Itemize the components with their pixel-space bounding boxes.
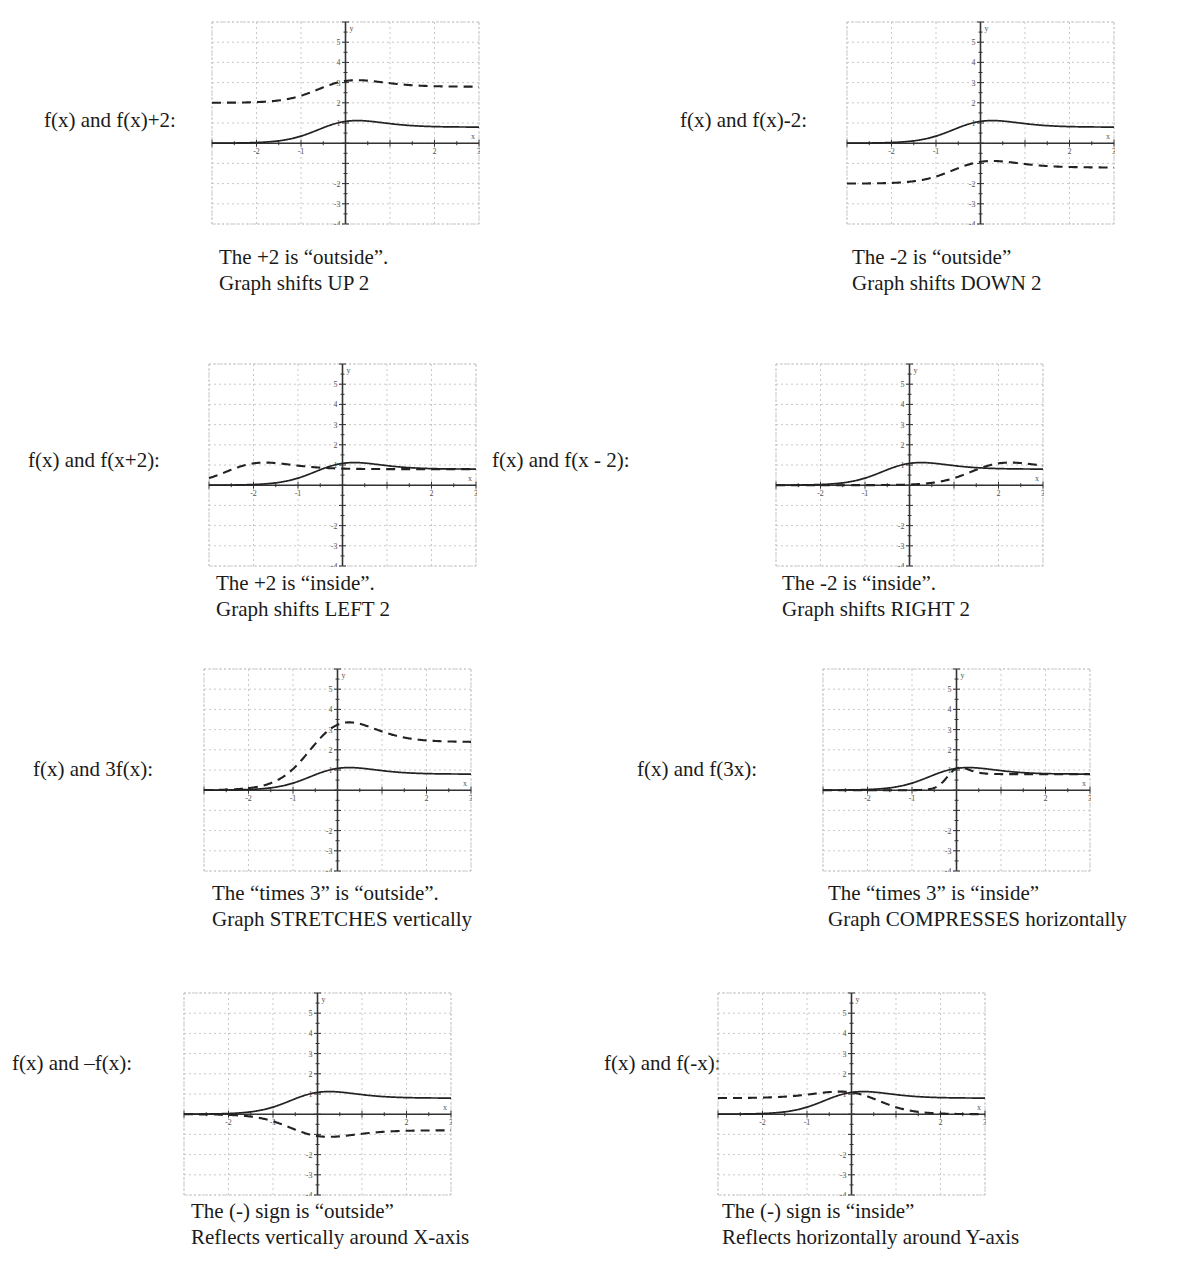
svg-text:y: y: [961, 671, 965, 680]
caption-three-fx: The “times 3” is “outside”. Graph STRETC…: [212, 880, 472, 932]
caption-line-2: Graph shifts LEFT 2: [216, 596, 390, 622]
svg-text:-4: -4: [969, 220, 976, 225]
graph-fx-minus-2-inside: 54321-2-3-4-2-123yx: [775, 363, 1044, 567]
svg-text:x: x: [1035, 474, 1039, 483]
caption-f-neg-x: The (-) sign is “inside” Reflects horizo…: [722, 1198, 1019, 1250]
svg-text:2: 2: [1068, 147, 1072, 156]
svg-text:-3: -3: [945, 847, 952, 856]
svg-text:4: 4: [901, 400, 905, 409]
svg-text:2: 2: [997, 489, 1001, 498]
svg-text:3: 3: [843, 1050, 847, 1059]
svg-text:-4: -4: [334, 220, 341, 225]
caption-line-2: Graph shifts DOWN 2: [852, 270, 1042, 296]
svg-text:x: x: [463, 779, 467, 788]
svg-text:y: y: [985, 24, 989, 33]
graph-fx-plus-2-inside: 54321-2-3-4-2-123yx: [208, 363, 477, 567]
svg-text:2: 2: [939, 1118, 943, 1127]
caption-fx-minus-2-inside: The -2 is “inside”. Graph shifts RIGHT 2: [782, 570, 970, 622]
graph-fx-minus-2: 54321-2-3-4-2-123yx: [846, 21, 1115, 225]
svg-text:-3: -3: [326, 847, 333, 856]
svg-text:-1: -1: [933, 147, 940, 156]
svg-text:3: 3: [1088, 794, 1091, 803]
svg-text:-2: -2: [334, 180, 341, 189]
caption-f-three-x: The “times 3” is “inside” Graph COMPRESS…: [828, 880, 1127, 932]
svg-text:-1: -1: [298, 147, 305, 156]
graph-f-neg-x: 54321-2-3-4-2-123yx: [717, 992, 986, 1196]
svg-text:4: 4: [843, 1029, 847, 1038]
graph-neg-fx: 54321-2-3-4-2-123yx: [183, 992, 452, 1196]
caption-line-1: The -2 is “outside”: [852, 244, 1042, 270]
svg-text:-3: -3: [306, 1171, 313, 1180]
svg-text:-2: -2: [759, 1118, 766, 1127]
caption-line-2: Reflects horizontally around Y-axis: [722, 1224, 1019, 1250]
svg-text:3: 3: [983, 1118, 986, 1127]
panel-label-neg-fx: f(x) and –f(x):: [12, 1051, 132, 1075]
svg-text:2: 2: [334, 441, 338, 450]
svg-text:-3: -3: [898, 542, 905, 551]
caption-line-1: The “times 3” is “inside”: [828, 880, 1127, 906]
svg-text:-4: -4: [898, 562, 905, 567]
caption-line-2: Graph shifts UP 2: [219, 270, 388, 296]
caption-line-2: Graph COMPRESSES horizontally: [828, 906, 1127, 932]
caption-neg-fx: The (-) sign is “outside” Reflects verti…: [191, 1198, 469, 1250]
svg-text:3: 3: [948, 726, 952, 735]
panel-label-fx-minus-2-inside: f(x) and f(x - 2):: [492, 448, 630, 472]
svg-text:-4: -4: [945, 867, 952, 872]
svg-text:3: 3: [309, 1050, 313, 1059]
svg-text:-2: -2: [945, 827, 952, 836]
svg-text:-4: -4: [326, 867, 333, 872]
svg-text:-2: -2: [888, 147, 895, 156]
caption-line-1: The (-) sign is “outside”: [191, 1198, 469, 1224]
svg-text:-3: -3: [331, 542, 338, 551]
svg-text:2: 2: [1044, 794, 1048, 803]
svg-text:-2: -2: [225, 1118, 232, 1127]
svg-text:x: x: [1106, 132, 1110, 141]
graph-three-fx: 54321-2-3-4-2-123yx: [203, 668, 472, 872]
svg-text:3: 3: [474, 489, 477, 498]
caption-line-1: The +2 is “inside”.: [216, 570, 390, 596]
worksheet-page: f(x) and f(x)+2: 54321-2-3-4-2-123yx The…: [0, 0, 1180, 1267]
svg-text:x: x: [468, 474, 472, 483]
svg-text:-2: -2: [250, 489, 257, 498]
svg-text:x: x: [977, 1103, 981, 1112]
svg-text:-1: -1: [804, 1118, 811, 1127]
panel-label-fx-plus-2-inside: f(x) and f(x+2):: [28, 448, 160, 472]
svg-text:3: 3: [449, 1118, 452, 1127]
svg-text:2: 2: [329, 746, 333, 755]
svg-text:y: y: [322, 995, 326, 1004]
panel-label-f-three-x: f(x) and f(3x):: [637, 757, 757, 781]
caption-line-2: Graph STRETCHES vertically: [212, 906, 472, 932]
svg-text:-2: -2: [840, 1151, 847, 1160]
svg-text:3: 3: [901, 421, 905, 430]
svg-text:4: 4: [337, 58, 341, 67]
svg-text:-1: -1: [295, 489, 302, 498]
svg-text:5: 5: [337, 38, 341, 47]
svg-text:x: x: [443, 1103, 447, 1112]
svg-text:4: 4: [948, 705, 952, 714]
svg-text:4: 4: [329, 705, 333, 714]
caption-fx-plus-2: The +2 is “outside”. Graph shifts UP 2: [219, 244, 388, 296]
svg-text:2: 2: [972, 99, 976, 108]
svg-text:-2: -2: [898, 522, 905, 531]
svg-text:-4: -4: [840, 1191, 847, 1196]
svg-text:2: 2: [309, 1070, 313, 1079]
svg-text:5: 5: [334, 380, 338, 389]
caption-line-1: The +2 is “outside”.: [219, 244, 388, 270]
caption-line-2: Graph shifts RIGHT 2: [782, 596, 970, 622]
caption-fx-plus-2-inside: The +2 is “inside”. Graph shifts LEFT 2: [216, 570, 390, 622]
svg-text:2: 2: [425, 794, 429, 803]
svg-text:-3: -3: [969, 200, 976, 209]
svg-text:y: y: [342, 671, 346, 680]
svg-text:-2: -2: [969, 180, 976, 189]
svg-text:-4: -4: [331, 562, 338, 567]
svg-text:-2: -2: [253, 147, 260, 156]
svg-text:3: 3: [1041, 489, 1044, 498]
svg-text:-2: -2: [331, 522, 338, 531]
svg-text:y: y: [856, 995, 860, 1004]
svg-text:y: y: [914, 366, 918, 375]
svg-text:-3: -3: [840, 1171, 847, 1180]
graph-fx-plus-2: 54321-2-3-4-2-123yx: [211, 21, 480, 225]
svg-text:5: 5: [972, 38, 976, 47]
svg-text:y: y: [347, 366, 351, 375]
svg-text:x: x: [1082, 779, 1086, 788]
